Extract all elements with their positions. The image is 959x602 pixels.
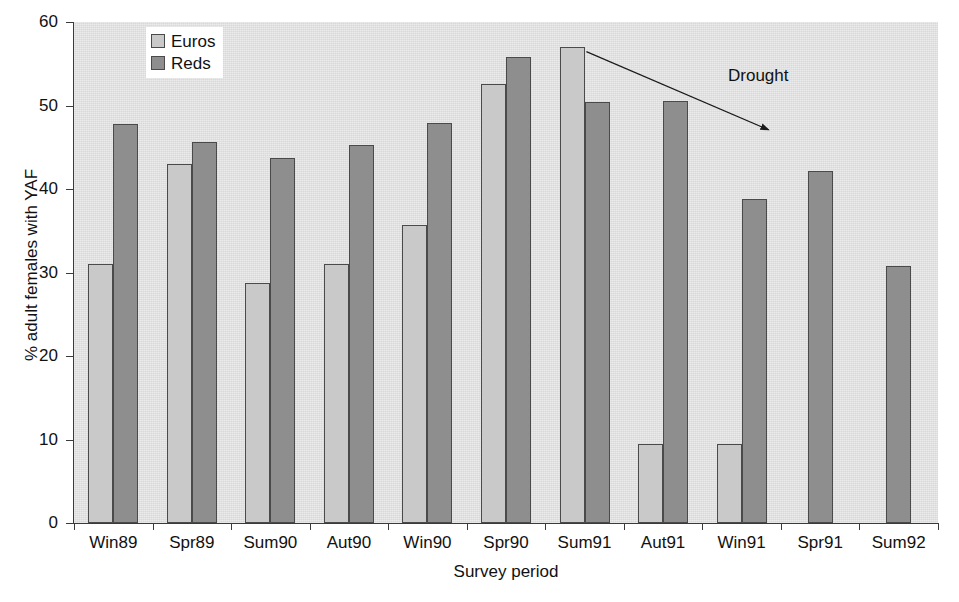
y-axis-tick [66, 106, 74, 107]
bar-euros-sum91 [560, 47, 585, 523]
legend-swatch-reds-icon [151, 56, 165, 70]
bar-reds-win89 [113, 124, 138, 523]
bar-reds-aut90 [349, 145, 374, 523]
legend-label-euros: Euros [171, 33, 215, 50]
bar-reds-sum90 [270, 158, 295, 523]
y-axis-tick [66, 523, 74, 524]
bar-reds-aut91 [663, 101, 688, 523]
bar-euros-aut90 [324, 264, 349, 523]
y-axis-tick [66, 189, 74, 190]
y-axis-tick [66, 273, 74, 274]
bar-euros-win89 [88, 264, 113, 523]
legend-swatch-euros-icon [151, 34, 165, 48]
bar-euros-spr90 [481, 84, 506, 523]
bar-reds-spr91 [808, 171, 833, 523]
x-axis-tick [231, 523, 232, 530]
y-axis-tick [66, 22, 74, 23]
x-axis-tick [388, 523, 389, 530]
bar-euros-sum90 [245, 283, 270, 523]
drought-annotation-label: Drought [728, 66, 788, 86]
y-axis-tick [66, 356, 74, 357]
x-axis-line [73, 523, 939, 524]
x-axis-tick-label: Sum91 [540, 534, 630, 553]
x-axis-tick [545, 523, 546, 530]
x-axis-tick-label: Spr90 [461, 534, 551, 553]
x-axis-tick-label: Win91 [697, 534, 787, 553]
bar-chart: 0102030405060 Win89Spr89Sum90Aut90Win90S… [0, 0, 959, 602]
bar-euros-win90 [402, 225, 427, 523]
x-axis-tick [467, 523, 468, 530]
bar-reds-spr89 [192, 142, 217, 523]
legend-item-euros: Euros [151, 30, 215, 52]
x-axis-tick-label: Spr89 [147, 534, 237, 553]
bar-reds-sum91 [585, 102, 610, 523]
legend-label-reds: Reds [171, 55, 211, 72]
y-axis-tick-label: 60 [18, 13, 58, 30]
x-axis-tick [624, 523, 625, 530]
x-axis-tick [781, 523, 782, 530]
bar-euros-aut91 [638, 444, 663, 523]
bar-reds-win91 [742, 199, 767, 523]
x-axis-tick-label: Aut90 [304, 534, 394, 553]
x-axis-tick-label: Sum90 [225, 534, 315, 553]
x-axis-tick-label: Spr91 [775, 534, 865, 553]
bar-euros-spr89 [167, 164, 192, 523]
y-axis-title: % adult females with YAF [22, 55, 42, 475]
x-axis-tick [702, 523, 703, 530]
x-axis-tick-label: Sum92 [854, 534, 944, 553]
bar-reds-sum92 [886, 266, 911, 523]
bar-reds-win90 [427, 123, 452, 523]
x-axis-tick [938, 523, 939, 530]
x-axis-tick [859, 523, 860, 530]
bar-euros-win91 [717, 444, 742, 523]
x-axis-tick-label: Win89 [68, 534, 158, 553]
y-axis-tick-label: 0 [18, 514, 58, 531]
x-axis-tick [310, 523, 311, 530]
x-axis-tick-label: Win90 [382, 534, 472, 553]
x-axis-tick [153, 523, 154, 530]
legend-item-reds: Reds [151, 52, 215, 74]
x-axis-tick-label: Aut91 [618, 534, 708, 553]
x-axis-title: Survey period [74, 562, 938, 582]
x-axis-tick [74, 523, 75, 530]
y-axis-tick [66, 440, 74, 441]
legend: Euros Reds [146, 27, 223, 78]
bar-reds-spr90 [506, 57, 531, 523]
